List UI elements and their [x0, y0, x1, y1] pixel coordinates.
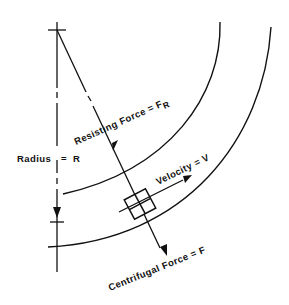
radius-equals: =: [61, 153, 67, 164]
curve-forces-diagram: Radius = R Resisting Force = FR Velocity…: [0, 0, 289, 305]
radius-symbol: R: [73, 153, 80, 164]
radius-arrowhead-icon: [53, 207, 61, 218]
centrifugal-force-label: Centrifugal Force = F: [107, 244, 207, 293]
resisting-force-label: Resisting Force = FR: [72, 95, 171, 149]
centrifugal-force-arrowhead-icon: [160, 244, 167, 256]
resisting-force-arrowhead-icon: [112, 140, 118, 151]
velocity-arrowhead-icon: [183, 175, 192, 183]
radius-label: Radius: [17, 153, 51, 164]
velocity-label: Velocity = V: [154, 151, 211, 186]
vehicle-box: [124, 189, 156, 220]
